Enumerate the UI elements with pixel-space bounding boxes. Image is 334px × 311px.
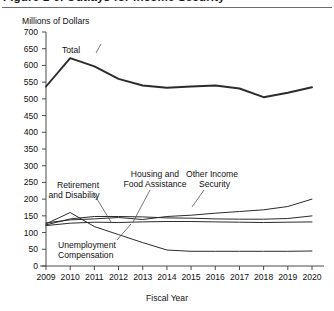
- series-lines: [46, 58, 312, 251]
- x-tick-label: 2009: [36, 272, 55, 282]
- x-axis-title: Fiscal Year: [0, 293, 334, 303]
- x-tick-label: 2015: [182, 272, 201, 282]
- x-tick-label: 2010: [61, 272, 80, 282]
- leader-total: [96, 44, 101, 53]
- x-tick-label: 2018: [254, 272, 273, 282]
- x-tick-label: 2013: [133, 272, 152, 282]
- series-line-housing-and-food-assistance: [46, 216, 312, 225]
- annotation-total: Total: [62, 46, 80, 56]
- y-tick-label: 400: [24, 127, 39, 137]
- y-tick-label: 550: [24, 77, 39, 87]
- line-chart: 0501001502002503003504004505005506006507…: [0, 0, 334, 311]
- x-tick-label: 2014: [157, 272, 176, 282]
- annotation-housing-line2: Food Assistance: [110, 180, 200, 190]
- annotation-retirement-line2: and Disability: [32, 191, 116, 201]
- y-tick-label: 600: [24, 60, 39, 70]
- y-tick-label: 100: [24, 228, 39, 238]
- annotation-other-income-line2: Security: [199, 180, 230, 190]
- y-tick-label: 350: [24, 144, 39, 154]
- y-tick-label: 450: [24, 111, 39, 121]
- x-axis-ticks: 2009201020112012201320142015201620172018…: [36, 266, 321, 282]
- annotation-unemployment-line2: Compensation: [58, 251, 113, 261]
- annotation-leader-lines: [94, 44, 204, 240]
- x-tick-label: 2020: [302, 272, 321, 282]
- y-tick-label: 700: [24, 27, 39, 37]
- leader-other-income: [192, 190, 204, 207]
- y-axis-ticks: 0501001502002503003504004505005506006507…: [24, 27, 46, 271]
- series-line-total: [46, 58, 312, 97]
- y-tick-label: 0: [33, 261, 38, 271]
- figure-container: Figure 1-6. Outlays for Income Security …: [0, 0, 334, 311]
- x-tick-label: 2016: [206, 272, 225, 282]
- y-tick-label: 300: [24, 161, 39, 171]
- y-tick-label: 150: [24, 211, 39, 221]
- chart-svg: 0501001502002503003504004505005506006507…: [0, 0, 334, 311]
- x-tick-label: 2011: [85, 272, 104, 282]
- x-tick-label: 2019: [278, 272, 297, 282]
- y-tick-label: 650: [24, 44, 39, 54]
- y-tick-label: 50: [28, 244, 38, 254]
- x-tick-label: 2012: [109, 272, 128, 282]
- y-tick-label: 500: [24, 94, 39, 104]
- x-tick-label: 2017: [230, 272, 249, 282]
- y-tick-label: 250: [24, 177, 39, 187]
